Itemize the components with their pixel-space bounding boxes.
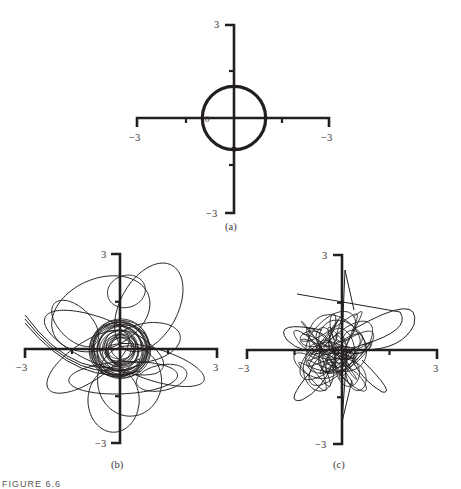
- panel-c-trajectory-curve: [284, 270, 415, 422]
- panel-c-axes: [247, 255, 437, 444]
- panel-c: 3 −3 −3 3 (c): [238, 250, 438, 471]
- panel-b-x-max-label: 3: [213, 362, 218, 373]
- panel-a-caption: (a): [225, 221, 237, 233]
- panel-b-trajectory-curve: [25, 263, 204, 432]
- panel-a-x-max-label: −3: [321, 132, 332, 143]
- panel-b-y-max-label: 3: [101, 249, 106, 260]
- panel-c-caption: (c): [333, 459, 345, 471]
- panel-b-x-min-label: −3: [16, 362, 27, 373]
- panel-b-y-min-label: −3: [95, 438, 106, 449]
- panel-a-y-max-label: 3: [214, 19, 219, 30]
- panel-c-y-max-label: 3: [322, 250, 327, 261]
- panel-a-origin-label: 0: [205, 114, 210, 124]
- figure-caption: FIGURE 6.6: [2, 479, 61, 489]
- panel-c-x-max-label: 3: [433, 363, 438, 374]
- panel-a: 3 −3 −3 −3 0 (a): [129, 19, 332, 233]
- panel-c-y-min-label: −3: [315, 439, 326, 450]
- panel-b-axes: [25, 254, 217, 443]
- panel-b-caption: (b): [111, 459, 124, 471]
- panel-a-axes: [137, 25, 329, 213]
- panel-a-y-min-label: −3: [206, 208, 217, 219]
- panel-b: 3 −3 −3 3 (b): [16, 249, 218, 471]
- panel-c-x-min-label: −3: [238, 363, 249, 374]
- panel-a-x-min-label: −3: [129, 132, 140, 143]
